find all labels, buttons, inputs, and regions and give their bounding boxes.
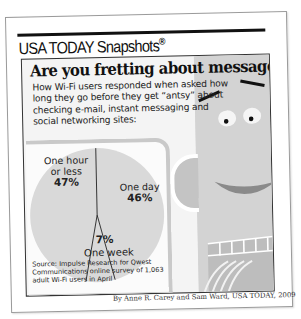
source-note: Source: Impulse Research for Qwest Commu…	[32, 257, 182, 285]
label-one-hour: One hour or less 47%	[36, 154, 97, 188]
label-one-day: One day 46%	[114, 181, 164, 204]
label-one-week: One week	[74, 246, 144, 258]
label-one-day-value: 46%	[115, 192, 165, 204]
registered-mark: ®	[159, 36, 165, 47]
label-one-week-value: 7%	[90, 234, 120, 246]
label-one-hour-line1: One hour	[36, 154, 96, 166]
page: USA TODAY Snapshots®	[0, 0, 301, 319]
brand-name: USA TODAY Snapshots	[18, 36, 159, 57]
brand-title: USA TODAY Snapshots®	[18, 36, 165, 59]
label-one-hour-value: 47%	[36, 176, 96, 188]
graphic-panel: Are you fretting about messages? How Wi-…	[21, 53, 275, 296]
